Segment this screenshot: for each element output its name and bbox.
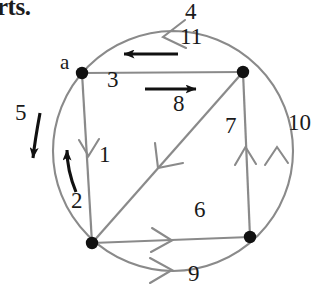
vertex-dot-top-right[interactable]	[237, 66, 249, 78]
edge-label-1: 1	[99, 143, 111, 166]
edge-label-4: 4	[185, 0, 197, 23]
graph-canvas	[0, 0, 330, 306]
edge-label-11: 11	[180, 25, 202, 48]
edge-8-diagonal-line	[92, 72, 243, 243]
edge-label-3: 3	[107, 68, 119, 91]
figure-root: rts.	[0, 0, 330, 306]
vertex-dot-bottom-right[interactable]	[244, 231, 256, 243]
edge-label-8: 8	[173, 92, 185, 115]
edge-label-7: 7	[225, 114, 237, 137]
vertex-label-a: a	[60, 52, 69, 73]
vertex-dot-bottom-left[interactable]	[86, 237, 98, 249]
arrow-5-thick-down	[33, 113, 40, 158]
vertex-dot-top-left[interactable]	[76, 67, 88, 79]
edge-label-5: 5	[15, 101, 27, 124]
edge-label-2: 2	[71, 189, 83, 212]
arrow-2-thick-up	[67, 150, 76, 192]
edge-10-arrowhead-up	[265, 147, 288, 165]
edge-1-line	[82, 73, 92, 243]
edge-1-arrowhead-down	[79, 139, 99, 156]
edge-label-6: 6	[194, 198, 206, 221]
edge-label-10: 10	[288, 111, 311, 134]
edge-label-9: 9	[188, 262, 200, 285]
